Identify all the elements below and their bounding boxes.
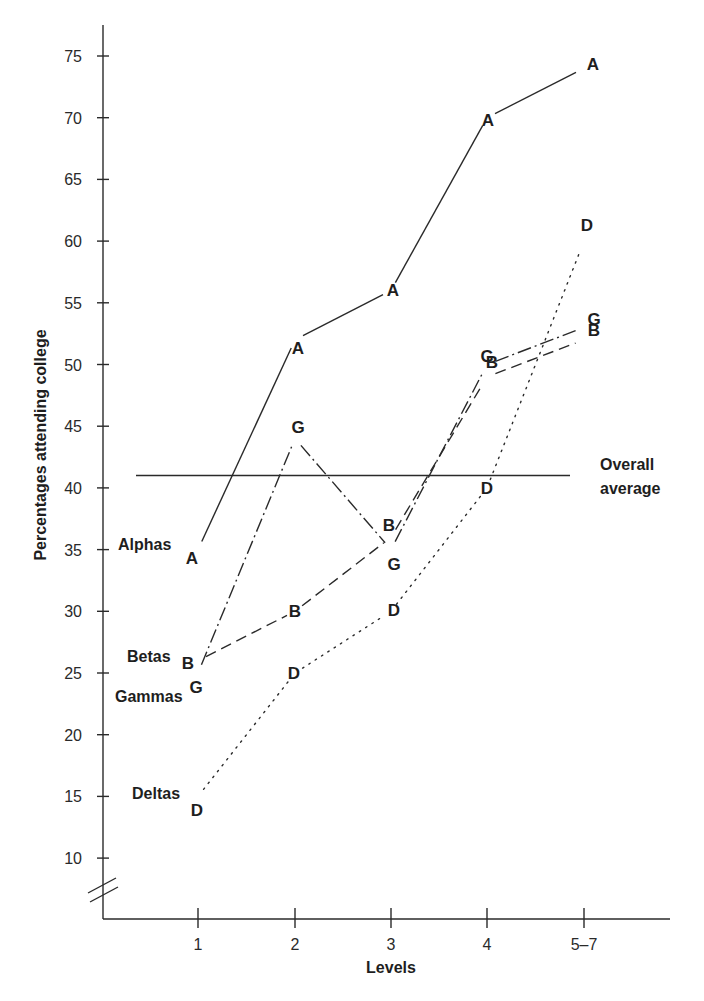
- series-line-gammas: [495, 331, 575, 362]
- y-axis-title: Percentages attending college: [32, 329, 49, 560]
- y-tick-label: 20: [64, 727, 82, 744]
- x-tick-label: 1: [194, 936, 203, 953]
- data-point-marker-alphas: A: [292, 339, 304, 358]
- y-tick-label: 60: [64, 233, 82, 250]
- series-line-betas: [302, 543, 384, 606]
- data-point-marker-gammas: G: [291, 418, 304, 437]
- series-markers: AAAAABBBBBGGGGGDDDDD: [182, 55, 601, 820]
- overall-average-label: Overall: [600, 456, 654, 473]
- y-tick-label: 75: [64, 48, 82, 65]
- y-tick-label: 30: [64, 603, 82, 620]
- x-tick-label: 5–7: [571, 936, 598, 953]
- data-point-marker-gammas: G: [387, 555, 400, 574]
- series-line-gammas: [201, 447, 291, 665]
- series-label-betas: Betas: [127, 648, 171, 665]
- data-point-marker-deltas: D: [191, 801, 203, 820]
- data-point-marker-alphas: A: [482, 111, 494, 130]
- x-tick-label: 4: [483, 936, 492, 953]
- x-axis-ticks: 12345–7: [194, 908, 598, 953]
- data-point-marker-alphas: A: [587, 55, 599, 74]
- y-tick-label: 55: [64, 295, 82, 312]
- y-tick-label: 40: [64, 480, 82, 497]
- data-point-marker-deltas: D: [288, 664, 300, 683]
- x-tick-label: 3: [387, 936, 396, 953]
- data-point-marker-alphas: A: [387, 281, 399, 300]
- series-label-gammas: Gammas: [115, 688, 183, 705]
- y-tick-label: 15: [64, 788, 82, 805]
- data-point-marker-betas: B: [383, 516, 395, 535]
- series-line-alphas: [303, 295, 383, 336]
- x-axis-title: Levels: [366, 959, 416, 976]
- series-line-gammas: [395, 372, 483, 541]
- y-tick-label: 65: [64, 171, 82, 188]
- y-tick-label: 70: [64, 110, 82, 127]
- series-line-betas: [206, 615, 287, 656]
- y-tick-label: 45: [64, 418, 82, 435]
- data-point-marker-gammas: G: [587, 310, 600, 329]
- y-tick-label: 50: [64, 357, 82, 374]
- data-point-marker-betas: B: [289, 602, 301, 621]
- series-line-gammas: [301, 445, 385, 542]
- series-line-betas: [495, 343, 575, 374]
- series-line-alphas: [395, 126, 482, 283]
- overall-average-label: average: [600, 480, 661, 497]
- data-point-marker-deltas: D: [388, 601, 400, 620]
- data-point-marker-gammas: G: [480, 347, 493, 366]
- data-point-marker-alphas: A: [186, 549, 198, 568]
- series-label-deltas: Deltas: [132, 785, 180, 802]
- data-point-marker-deltas: D: [481, 479, 493, 498]
- y-axis-ticks: 1015202530354045505560657075: [64, 48, 109, 867]
- data-point-marker-gammas: G: [189, 678, 202, 697]
- series-line-deltas: [397, 495, 482, 604]
- y-tick-label: 25: [64, 665, 82, 682]
- series-label-alphas: Alphas: [118, 536, 171, 553]
- line-chart: 1015202530354045505560657075 12345–7 Per…: [0, 0, 704, 1001]
- series-line-alphas: [202, 348, 291, 541]
- series-line-deltas: [490, 249, 580, 479]
- series-line-deltas: [204, 680, 290, 789]
- data-point-marker-betas: B: [182, 654, 194, 673]
- overall-average: Overall average: [136, 456, 661, 497]
- data-point-marker-deltas: D: [581, 216, 593, 235]
- series-line-alphas: [495, 72, 576, 113]
- y-tick-label: 10: [64, 850, 82, 867]
- series-line-betas: [396, 385, 483, 530]
- y-tick-label: 35: [64, 542, 82, 559]
- series-lines: [201, 72, 580, 789]
- series-line-deltas: [303, 616, 384, 668]
- x-tick-label: 2: [291, 936, 300, 953]
